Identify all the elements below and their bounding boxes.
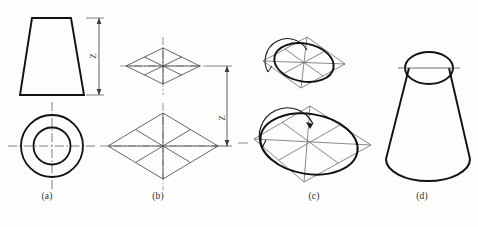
large-construction-mid-line-2 <box>279 125 340 160</box>
large-rhombus-construction <box>100 103 228 190</box>
front-view-trapezoid <box>20 18 84 95</box>
small-construction-mid-line-2 <box>282 51 326 75</box>
iso-arrowhead-top <box>225 66 230 72</box>
finished-cone-frustum <box>386 52 470 181</box>
caption-c: (c) <box>294 191 334 201</box>
small-ellipse-construction <box>263 37 345 88</box>
dimension-label-z-front: Z <box>88 49 98 63</box>
cone-bottom-ellipse-front-arc <box>386 159 470 181</box>
arrowhead-top <box>97 18 102 24</box>
cone-right-slant-edge <box>449 68 470 159</box>
iso-arrowhead-bottom <box>225 140 230 146</box>
small-arc-leader-tick <box>268 66 272 72</box>
top-view-concentric-circles <box>8 102 96 190</box>
figure-container: Z Z (a) (b) (c) (d) <box>0 0 478 227</box>
dimension-label-z-iso: Z <box>217 111 227 125</box>
caption-a: (a) <box>27 191 67 201</box>
trapezoid-outline <box>20 18 84 95</box>
arrowhead-bottom <box>97 89 102 95</box>
cone-left-slant-edge <box>386 68 409 159</box>
dimension-z-iso <box>206 66 232 146</box>
caption-b: (b) <box>138 191 178 201</box>
large-ellipse-construction <box>238 106 371 182</box>
small-rhombus-construction <box>120 37 206 95</box>
caption-d: (d) <box>402 191 442 201</box>
